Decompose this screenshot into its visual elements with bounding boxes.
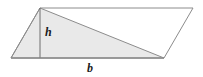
- base-label: b: [87, 62, 93, 74]
- shaded-triangle: [11, 8, 164, 58]
- figure-canvas: [0, 0, 203, 77]
- geometry-figure: h b: [0, 0, 203, 77]
- height-label: h: [45, 26, 52, 38]
